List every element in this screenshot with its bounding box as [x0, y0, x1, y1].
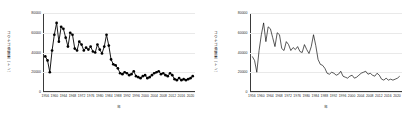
data-point-marker: [169, 72, 172, 75]
x-axis-tick-label: 1992: [123, 94, 131, 98]
x-axis-tick-label: 1972: [284, 94, 292, 98]
y-axis-tick-label: 40000: [238, 51, 248, 55]
y-axis-tick-label: 80000: [238, 11, 248, 15]
x-axis-label: 年: [43, 104, 195, 109]
x-axis-tick-label: 1956: [41, 94, 49, 98]
data-point-marker: [101, 52, 104, 55]
x-axis-tick-label: 2016: [178, 94, 186, 98]
data-point-marker: [85, 46, 88, 49]
x-axis-tick-label: 2020: [187, 94, 195, 98]
x-axis-tick-label: 1960: [257, 94, 265, 98]
data-point-marker: [64, 36, 67, 39]
data-point-marker: [89, 45, 92, 48]
data-point-marker: [98, 48, 101, 51]
data-point-marker: [71, 33, 74, 36]
data-point-marker: [48, 71, 51, 74]
data-point-marker: [166, 75, 169, 78]
data-point-marker: [44, 55, 47, 58]
x-axis-tick-label: 1996: [339, 94, 347, 98]
data-point-marker: [96, 43, 99, 46]
data-point-marker: [67, 45, 70, 48]
data-point-marker: [94, 51, 97, 54]
x-axis-tick-label: 1980: [96, 94, 104, 98]
x-axis-tick-label: 1956: [248, 94, 256, 98]
x-axis-tick-label: 1964: [266, 94, 274, 98]
panel-left: コウナゴ漁獲量（トン） 0200004000060000800001956196…: [0, 0, 207, 121]
x-axis-tick-label: 1968: [69, 94, 77, 98]
data-point-marker: [114, 64, 117, 67]
data-point-marker: [78, 40, 81, 43]
x-axis-tick-label: 1984: [312, 94, 320, 98]
y-axis-tick-label: 20000: [31, 70, 41, 74]
y-axis-tick-label: 60000: [31, 31, 41, 35]
data-point-marker: [110, 58, 113, 61]
data-point-marker: [176, 79, 179, 82]
x-axis-tick-label: 1976: [293, 94, 301, 98]
x-axis-tick-label: 1996: [132, 94, 140, 98]
x-axis-tick-label: 2008: [366, 94, 374, 98]
x-axis-tick-label: 1988: [321, 94, 329, 98]
data-point-marker: [80, 43, 83, 46]
data-point-marker: [55, 22, 58, 25]
y-axis-label: コウナゴ漁獲量（トン）: [209, 14, 221, 92]
figure-container: コウナゴ漁獲量（トン） 0200004000060000800001956196…: [0, 0, 413, 121]
data-point-marker: [73, 47, 76, 50]
x-axis-tick-label: 2004: [357, 94, 365, 98]
y-axis-tick-label: 20000: [238, 70, 248, 74]
y-axis-label: コウナゴ漁獲量（トン）: [2, 14, 14, 92]
x-axis-tick-label: 1976: [87, 94, 95, 98]
x-axis-tick-label: 2000: [141, 94, 149, 98]
x-axis-tick-label: 1972: [78, 94, 86, 98]
data-point-marker: [126, 72, 129, 75]
data-point-marker: [76, 49, 79, 52]
y-axis-tick-label: 80000: [31, 11, 41, 15]
data-point-marker: [130, 73, 133, 76]
data-point-marker: [139, 77, 142, 80]
series-line: [250, 13, 402, 92]
data-point-marker: [171, 74, 174, 77]
data-point-marker: [162, 72, 165, 75]
data-point-marker: [46, 59, 49, 62]
series-path: [252, 23, 399, 80]
data-point-marker: [151, 74, 154, 77]
data-point-marker: [189, 77, 192, 80]
x-axis-tick-label: 2016: [384, 94, 392, 98]
data-point-marker: [117, 67, 120, 70]
data-point-marker: [69, 31, 72, 34]
x-axis-tick-label: 2008: [159, 94, 167, 98]
x-axis-tick-label: 1960: [51, 94, 59, 98]
data-point-marker: [60, 25, 63, 28]
data-point-marker: [191, 75, 194, 78]
x-axis-label: 年: [250, 104, 402, 109]
data-point-marker: [132, 70, 135, 73]
y-axis-tick-label: 60000: [238, 31, 248, 35]
data-point-marker: [103, 45, 106, 48]
x-axis-tick-label: 1992: [330, 94, 338, 98]
x-axis-tick-label: 1988: [114, 94, 122, 98]
x-axis-tick-label: 2012: [169, 94, 177, 98]
data-point-marker: [62, 27, 65, 30]
data-point-marker: [157, 70, 160, 73]
data-point-marker: [105, 33, 108, 36]
data-point-marker: [178, 77, 181, 80]
data-point-marker: [53, 33, 56, 36]
x-axis-tick-label: 2020: [393, 94, 401, 98]
x-axis-tick-label: 1968: [275, 94, 283, 98]
plot-area-right: 0200004000060000800001956196019641968197…: [250, 13, 402, 92]
data-point-marker: [107, 44, 110, 47]
data-point-marker: [121, 73, 124, 76]
x-axis-tick-label: 2012: [375, 94, 383, 98]
x-axis-tick-label: 2000: [348, 94, 356, 98]
series-line-markers: [43, 13, 195, 92]
series-path: [45, 23, 192, 80]
x-axis-tick-label: 2004: [150, 94, 158, 98]
data-point-marker: [148, 76, 151, 79]
x-axis-tick-label: 1980: [302, 94, 310, 98]
panel-right: コウナゴ漁獲量（トン） 0200004000060000800001956196…: [207, 0, 413, 121]
x-axis-tick-label: 1984: [105, 94, 113, 98]
plot-area-left: 0200004000060000800001956196019641968197…: [43, 13, 195, 92]
data-point-marker: [82, 49, 85, 52]
y-axis-tick-label: 40000: [31, 51, 41, 55]
x-axis-tick-label: 1964: [60, 94, 68, 98]
data-point-marker: [87, 48, 90, 51]
